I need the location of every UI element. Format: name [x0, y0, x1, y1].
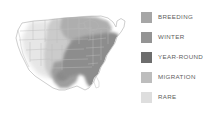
legend-item-migration: MIGRATION [135, 67, 215, 87]
legend-swatch-year-round [141, 52, 152, 63]
legend-swatch-migration [141, 72, 152, 83]
legend-item-breeding: BREEDING [135, 7, 215, 27]
legend-swatch-breeding [141, 12, 152, 23]
legend-item-winter: WINTER [135, 27, 215, 47]
legend-label-breeding: BREEDING [158, 14, 193, 20]
us-range-map-graphic [0, 0, 135, 114]
legend-swatch-winter [141, 32, 152, 43]
legend-label-rare: RARE [158, 94, 177, 100]
legend-label-migration: MIGRATION [158, 74, 196, 80]
legend-label-winter: WINTER [158, 34, 185, 40]
map-legend: BREEDING WINTER YEAR-ROUND MIGRATION RAR… [135, 0, 215, 114]
range-map-panel [0, 0, 135, 114]
legend-label-year-round: YEAR-ROUND [158, 54, 203, 60]
legend-item-year-round: YEAR-ROUND [135, 47, 215, 67]
bird-range-map-figure: BREEDING WINTER YEAR-ROUND MIGRATION RAR… [0, 0, 215, 114]
legend-swatch-rare [141, 92, 152, 103]
legend-item-rare: RARE [135, 87, 215, 107]
